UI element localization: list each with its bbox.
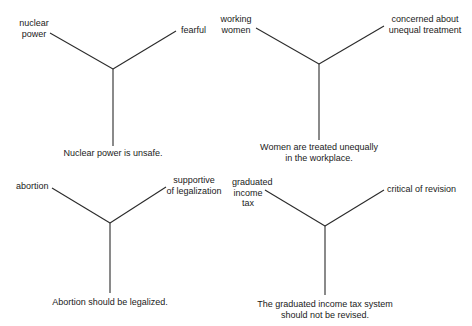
diagram-2-attitude-label: concerned about unequal treatment <box>386 14 464 35</box>
diagram-3-concept-label: abortion <box>16 181 49 192</box>
diagram-1-belief-label: Nuclear power is unsafe. <box>33 148 193 159</box>
diagram-1-attitude-label: fearful <box>181 25 206 36</box>
diagram-2-belief-label: Women are treated unequally in the workp… <box>244 142 394 163</box>
diagram-3-attitude-label: supportive of legalization <box>166 175 222 196</box>
diagram-4-concept-label: graduated income tax <box>232 177 264 209</box>
diagram-4-belief-label: The graduated income tax system should n… <box>240 299 410 320</box>
diagram-2-lines <box>256 26 384 140</box>
tripod-lines <box>0 0 472 326</box>
diagram-3-belief-label: Abortion should be legalized. <box>30 297 190 308</box>
diagram-1-concept-label: nuclear power <box>14 18 54 39</box>
diagram-4-lines <box>265 190 384 295</box>
diagram-4-attitude-label: critical of revision <box>387 184 456 195</box>
diagram-2-concept-label: working women <box>216 14 256 35</box>
diagram-3-lines <box>52 187 166 293</box>
diagram-1-lines <box>50 31 176 146</box>
